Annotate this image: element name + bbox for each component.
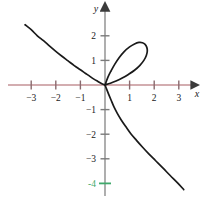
- y-axis-tick-labels: 21−1−2−3: [86, 31, 96, 164]
- x-tick-label: 3: [176, 93, 181, 103]
- y-axis-label: y: [93, 3, 99, 14]
- y-tick-label: −3: [86, 154, 96, 164]
- x-axis-label: x: [194, 88, 200, 99]
- x-tick-label: −2: [51, 93, 61, 103]
- x-tick-label: −3: [26, 93, 36, 103]
- y-tick-label: 2: [91, 31, 96, 41]
- y-axis-highlight-tick: -4: [88, 179, 111, 189]
- folium-of-descartes-figure: −3−2−1123 x 21−1−2−3 y -4: [0, 0, 209, 203]
- y-tick-label: 1: [91, 56, 96, 66]
- folium-lower-right-branch: [105, 85, 184, 190]
- x-tick-label: 2: [152, 93, 157, 103]
- folium-loop: [105, 42, 147, 85]
- y-tick-label: −1: [86, 105, 96, 115]
- y-tick-label: −2: [86, 130, 96, 140]
- x-tick-label: −1: [75, 93, 85, 103]
- y-axis-group: 21−1−2−3 y: [86, 3, 110, 196]
- x-tick-label: 1: [127, 93, 132, 103]
- highlight-tick-label: -4: [88, 179, 96, 189]
- coordinate-plot: −3−2−1123 x 21−1−2−3 y -4: [0, 0, 209, 203]
- x-axis-tick-labels: −3−2−1123: [26, 93, 181, 103]
